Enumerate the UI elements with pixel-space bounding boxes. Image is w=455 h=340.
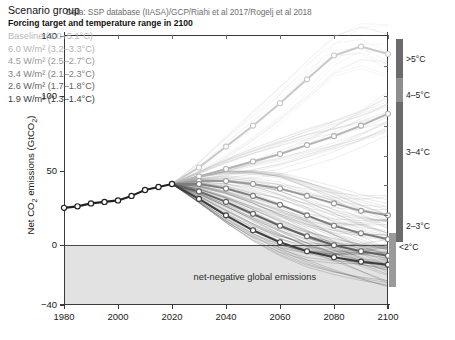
scenario-marker	[251, 193, 256, 198]
scenario-marker	[278, 101, 283, 106]
scenario-marker	[278, 240, 283, 245]
scenario-marker	[332, 134, 337, 139]
x-top-tick-2040	[226, 35, 227, 39]
historical-marker	[75, 204, 80, 209]
scenario-marker	[305, 143, 310, 148]
co2-emissions-chart: Data: SSP database (IIASA)/GCP/Riahi et …	[0, 0, 455, 340]
historical-marker	[61, 205, 66, 210]
scenario-marker	[224, 186, 229, 191]
scenario-marker	[224, 144, 229, 149]
scenario-marker	[251, 159, 256, 164]
y-tick-0	[60, 245, 65, 246]
scenario-marker	[278, 152, 283, 157]
legend-item-label: Baseline (3.0–5.1°C)	[8, 31, 93, 41]
scenario-marker	[197, 181, 202, 186]
ensemble-line	[172, 69, 388, 184]
temp-bar-label-0: >5°C	[406, 54, 425, 64]
scenario-marker	[224, 199, 229, 204]
scenario-marker	[224, 167, 229, 172]
historical-curve	[61, 181, 174, 210]
legend-item-3[interactable]: 3.4 W/m² (2.1–2.3°C)	[8, 68, 198, 81]
scenario-marker	[359, 44, 364, 49]
x-tick-1980	[64, 304, 65, 309]
scenario-marker	[386, 111, 391, 116]
y-minor-tick-20	[384, 215, 388, 216]
legend-item-5[interactable]: 1.9 W/m² (1.3–1.4°C)	[8, 93, 198, 106]
legend-item-label: 2.6 W/m² (1.7–1.8°C)	[8, 81, 95, 91]
legend-item-0[interactable]: Baseline (3.0–5.1°C)	[8, 30, 198, 43]
historical-marker	[142, 187, 147, 192]
y-minor-tick-120	[384, 66, 388, 67]
scenario-marker	[359, 249, 364, 254]
scenario-marker	[359, 208, 364, 213]
scenario-marker	[224, 178, 229, 183]
scenario-marker	[305, 193, 310, 198]
scenario-marker	[332, 243, 337, 248]
scenario-marker	[197, 165, 202, 170]
historical-marker	[169, 181, 174, 186]
temp-bar-2	[396, 102, 403, 195]
scenario-marker	[305, 249, 310, 254]
scenario-marker	[224, 213, 229, 218]
historical-marker	[115, 198, 120, 203]
x-tick-2100	[388, 304, 389, 309]
scenario-marker	[197, 189, 202, 194]
scenario-marker	[305, 213, 310, 218]
legend-item-4[interactable]: 2.6 W/m² (1.7–1.8°C)	[8, 80, 198, 93]
temp-bar-label-2: 3–4°C	[406, 147, 430, 157]
x-tick-2000	[118, 304, 119, 309]
x-tick-label-2040: 2040	[203, 311, 249, 322]
scenario-marker	[332, 201, 337, 206]
scenario-marker	[278, 186, 283, 191]
temp-bar-1	[396, 78, 403, 102]
temp-bar-label-3: 2–3°C	[406, 221, 430, 231]
temp-bar-label-1: 4–5°C	[406, 90, 430, 100]
y-tick-label--40: −40	[17, 299, 57, 310]
scenario-marker	[278, 202, 283, 207]
temp-bar-0	[396, 39, 403, 78]
legend-title: Scenario group	[8, 4, 198, 16]
x-tick-label-2100: 2100	[365, 311, 411, 322]
scenario-marker	[332, 255, 337, 260]
scenario-marker	[251, 181, 256, 186]
scenario-marker	[359, 123, 364, 128]
x-top-tick-2080	[334, 35, 335, 39]
scenario-marker	[305, 234, 310, 239]
y-tick-50	[60, 171, 65, 172]
x-top-tick-2100	[388, 35, 389, 39]
x-tick-2060	[280, 304, 281, 309]
legend-item-label: 6.0 W/m² (3.2–3.3°C)	[8, 44, 95, 54]
temp-bar-4	[389, 233, 396, 287]
x-tick-label-2020: 2020	[149, 311, 195, 322]
legend-item-label: 1.9 W/m² (1.3–1.4°C)	[8, 94, 95, 104]
historical-marker	[102, 199, 107, 204]
y-minor-tick-40	[384, 185, 388, 186]
historical-marker	[156, 184, 161, 189]
scenario-marker	[359, 259, 364, 264]
historical-marker	[88, 201, 93, 206]
y-minor-tick-60	[384, 156, 388, 157]
scenario-marker	[197, 196, 202, 201]
x-tick-2040	[226, 304, 227, 309]
temp-bar-3	[396, 194, 403, 242]
x-tick-label-2060: 2060	[257, 311, 303, 322]
scenario-marker	[251, 123, 256, 128]
legend-item-2[interactable]: 4.5 W/m² (2.5–2.7°C)	[8, 55, 198, 68]
y-minor-tick-80	[384, 126, 388, 127]
scenario-marker	[386, 51, 391, 56]
net-negative-label: net-negative global emissions	[194, 272, 316, 282]
y-tick-label-50: 50	[17, 165, 57, 176]
scenario-legend: Scenario group Forcing target and temper…	[8, 4, 198, 106]
scenario-marker	[251, 211, 256, 216]
x-tick-2020	[172, 304, 173, 309]
legend-item-1[interactable]: 6.0 W/m² (3.2–3.3°C)	[8, 43, 198, 56]
x-tick-label-1980: 1980	[41, 311, 87, 322]
y-minor-tick-100	[384, 96, 388, 97]
legend-subtitle: Forcing target and temperature range in …	[8, 18, 198, 28]
legend-item-label: 3.4 W/m² (2.1–2.3°C)	[8, 69, 95, 79]
y-minor-tick-0	[384, 245, 388, 246]
x-top-tick-2060	[280, 35, 281, 39]
legend-item-label: 4.5 W/m² (2.5–2.7°C)	[8, 56, 95, 66]
scenario-marker	[278, 223, 283, 228]
historical-marker	[129, 193, 134, 198]
